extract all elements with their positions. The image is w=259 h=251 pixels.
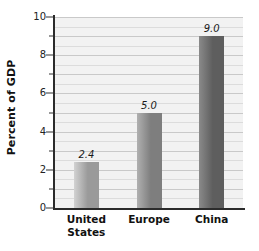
y-axis-tick-label: 4 <box>24 127 46 137</box>
bar-value-label: 5.0 <box>141 101 157 111</box>
y-axis-tick-label: 10 <box>24 12 46 22</box>
bar-chart-figure: Percent of GDP 0246810 2.45.09.0 United … <box>0 0 259 251</box>
y-axis-tick-label: 2 <box>24 165 46 175</box>
y-axis-ticks <box>46 17 53 208</box>
bar[interactable]: 5.0 <box>137 113 162 209</box>
x-axis-category-label: China <box>180 213 243 226</box>
x-axis-line <box>53 208 245 210</box>
x-axis-category-label: United States <box>55 213 118 239</box>
x-axis-category-labels: United StatesEuropeChina <box>55 213 243 249</box>
y-axis-tick-label: 0 <box>24 203 46 213</box>
y-axis-major-tick <box>46 208 53 209</box>
y-axis-title: Percent of GDP <box>2 0 22 215</box>
y-axis-major-tick <box>46 131 53 132</box>
gridline <box>55 17 243 18</box>
x-axis-category-label: Europe <box>118 213 181 226</box>
y-axis-major-tick <box>46 55 53 56</box>
y-axis-tick-label: 8 <box>24 50 46 60</box>
y-axis-title-text: Percent of GDP <box>6 60 19 156</box>
plot-area: 2.45.09.0 <box>55 17 243 208</box>
y-axis-tick-labels: 0246810 <box>24 17 46 208</box>
bar-value-label: 9.0 <box>204 24 220 34</box>
bar[interactable]: 9.0 <box>199 36 224 208</box>
y-axis-tick-label: 6 <box>24 88 46 98</box>
y-axis-major-tick <box>46 169 53 170</box>
y-axis-major-tick <box>46 17 53 18</box>
bar-value-label: 2.4 <box>78 150 94 160</box>
y-axis-major-tick <box>46 93 53 94</box>
bar[interactable]: 2.4 <box>74 162 99 208</box>
